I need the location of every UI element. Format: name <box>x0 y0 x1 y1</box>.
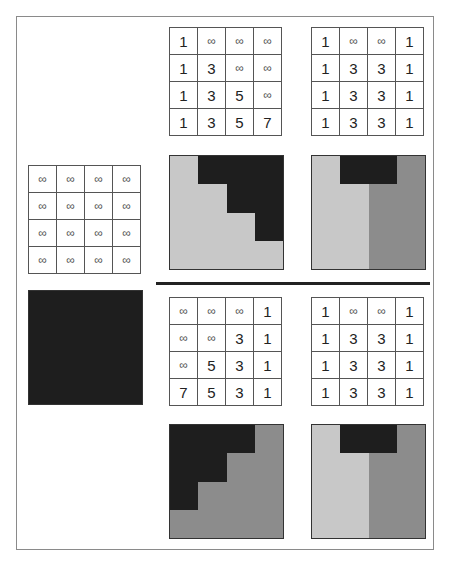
grid-cell: 7 <box>170 379 198 406</box>
grid-cell: ∞ <box>29 193 57 220</box>
grid-cell: 1 <box>396 352 424 379</box>
image-block <box>397 425 426 454</box>
image-block <box>227 425 256 454</box>
grid-cell: ∞ <box>113 247 141 274</box>
grid-cell: 1 <box>396 109 424 136</box>
grid-cell: ∞ <box>198 298 226 325</box>
image-block <box>114 319 143 348</box>
image-block <box>255 213 284 242</box>
image-block <box>114 376 143 405</box>
grid-cell: ∞ <box>113 166 141 193</box>
grid-row: 13∞∞ <box>170 55 282 82</box>
grid-cell: ∞ <box>57 247 85 274</box>
image-block <box>369 510 398 539</box>
image-block <box>227 510 256 539</box>
image-block <box>227 156 256 185</box>
grid-cell: 1 <box>312 352 340 379</box>
grid-cell: ∞ <box>113 220 141 247</box>
image-block <box>227 213 256 242</box>
bottom-left-distance-grid: ∞∞∞1∞∞31∞5317531 <box>169 297 282 406</box>
image-block <box>29 319 58 348</box>
image-block <box>369 453 398 482</box>
grid-cell: 3 <box>226 379 254 406</box>
grid-cell: 1 <box>312 298 340 325</box>
image-block <box>57 348 86 377</box>
image-block <box>369 213 398 242</box>
image-block <box>397 482 426 511</box>
grid-cell: 1 <box>396 325 424 352</box>
grid-cell: 3 <box>340 55 368 82</box>
image-block <box>340 510 369 539</box>
grid-cell: 1 <box>170 28 198 55</box>
grid-cell: 3 <box>198 82 226 109</box>
image-block <box>340 241 369 270</box>
grid-cell: 1 <box>312 325 340 352</box>
grid-cell: ∞ <box>57 166 85 193</box>
grid-cell: 1 <box>396 55 424 82</box>
image-block <box>397 156 426 185</box>
image-block <box>312 213 341 242</box>
grid-row: 1331 <box>312 109 424 136</box>
grid-cell: ∞ <box>254 55 282 82</box>
grid-cell: ∞ <box>85 220 113 247</box>
image-block <box>198 213 227 242</box>
grid-cell: 3 <box>198 55 226 82</box>
grid-cell: ∞ <box>340 28 368 55</box>
grid-row: 1331 <box>312 352 424 379</box>
grid-cell: 1 <box>312 28 340 55</box>
bottom-right-distance-grid: 1∞∞1133113311331 <box>311 297 424 406</box>
image-block <box>369 425 398 454</box>
grid-cell: ∞ <box>368 28 396 55</box>
grid-row: 1331 <box>312 55 424 82</box>
grid-cell: ∞ <box>85 193 113 220</box>
image-block <box>86 291 115 320</box>
image-block <box>369 482 398 511</box>
image-block <box>170 156 199 185</box>
image-block <box>312 482 341 511</box>
grid-cell: 3 <box>226 352 254 379</box>
grid-cell: ∞ <box>170 352 198 379</box>
grid-cell: 1 <box>396 82 424 109</box>
grid-row: 1331 <box>312 82 424 109</box>
image-block <box>255 510 284 539</box>
grid-cell: 1 <box>312 82 340 109</box>
image-block <box>397 510 426 539</box>
image-block <box>114 291 143 320</box>
image-block <box>86 348 115 377</box>
image-block <box>255 184 284 213</box>
image-block <box>170 241 199 270</box>
image-block <box>369 184 398 213</box>
grid-cell: 1 <box>254 379 282 406</box>
image-block <box>227 482 256 511</box>
grid-cell: 1 <box>170 109 198 136</box>
grid-row: 135∞ <box>170 82 282 109</box>
grid-cell: 1 <box>312 55 340 82</box>
image-block <box>29 376 58 405</box>
grid-cell: 1 <box>396 28 424 55</box>
grid-cell: ∞ <box>29 166 57 193</box>
grid-cell: 3 <box>340 352 368 379</box>
grid-row: ∞531 <box>170 352 282 379</box>
grid-cell: ∞ <box>170 325 198 352</box>
image-block <box>227 241 256 270</box>
image-block <box>170 425 199 454</box>
image-block <box>170 453 199 482</box>
image-block <box>369 241 398 270</box>
image-block <box>170 482 199 511</box>
grid-row: 1∞∞∞ <box>170 28 282 55</box>
grid-row: 1∞∞1 <box>312 28 424 55</box>
grid-row: ∞∞31 <box>170 325 282 352</box>
grid-cell: 1 <box>312 379 340 406</box>
image-block <box>397 453 426 482</box>
grid-cell: 5 <box>198 379 226 406</box>
image-block <box>198 453 227 482</box>
grid-cell: 1 <box>254 298 282 325</box>
image-block <box>29 291 58 320</box>
grid-cell: ∞ <box>85 247 113 274</box>
image-block <box>340 213 369 242</box>
grid-cell: ∞ <box>29 220 57 247</box>
grid-row: 7531 <box>170 379 282 406</box>
image-block <box>397 213 426 242</box>
grid-cell: 3 <box>340 325 368 352</box>
image-block <box>340 482 369 511</box>
